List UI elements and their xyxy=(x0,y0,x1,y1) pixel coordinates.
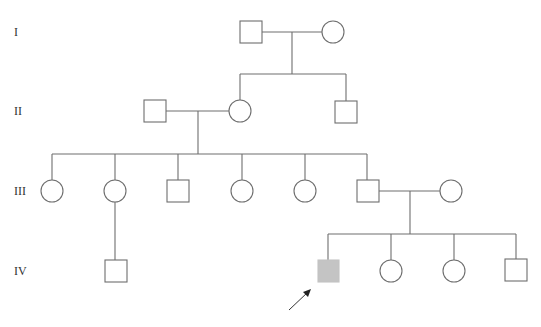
pedigree-diagram xyxy=(0,0,541,327)
female-symbol-iii-1 xyxy=(41,180,63,202)
mating-line-ii xyxy=(52,111,367,180)
affected-male-proband-iv-2 xyxy=(318,260,339,282)
female-symbol-iii-7 xyxy=(440,180,462,202)
mating-line-iii xyxy=(328,191,516,260)
male-symbol-ii-3 xyxy=(335,101,357,123)
female-symbol-ii-2 xyxy=(229,100,251,122)
male-symbol-ii-1 xyxy=(144,100,166,122)
female-symbol-iii-4 xyxy=(231,180,253,202)
male-symbol-iv-5 xyxy=(505,259,527,281)
male-symbol-iv-1 xyxy=(105,260,127,282)
female-symbol-iii-5 xyxy=(294,180,316,202)
female-symbol-iv-3 xyxy=(380,260,402,282)
female-symbol-iv-4 xyxy=(443,260,465,282)
male-symbol-iii-3 xyxy=(167,180,189,202)
female-symbol-i-2 xyxy=(322,21,344,43)
male-symbol-i-1 xyxy=(240,21,262,43)
female-symbol-iii-2 xyxy=(104,180,126,202)
male-symbol-iii-6 xyxy=(357,180,379,202)
proband-arrow-icon xyxy=(289,289,311,310)
